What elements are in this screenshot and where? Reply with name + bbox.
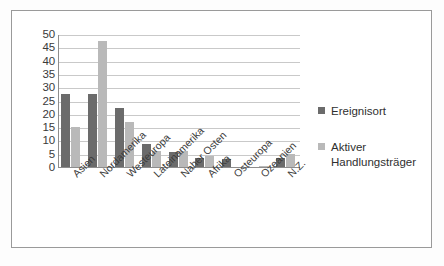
legend-item-label: Ereignisort xyxy=(331,104,386,118)
y-axis-tick-label: 25 xyxy=(43,96,55,108)
legend-swatch-ereignisort xyxy=(318,107,325,114)
legend-swatch-aktiver-handlungstraeger xyxy=(318,143,325,150)
y-axis-tick-label: 30 xyxy=(43,82,55,94)
bar[interactable] xyxy=(98,41,107,167)
y-axis-tick-label: 50 xyxy=(43,29,55,41)
chart-legend: EreignisortAktiver Handlungsträger xyxy=(318,104,438,191)
y-axis-tick-label: 20 xyxy=(43,109,55,121)
legend-item[interactable]: Aktiver Handlungsträger xyxy=(318,140,438,169)
bar[interactable] xyxy=(61,94,70,167)
bar-group xyxy=(220,35,247,167)
y-axis-tick-label: 10 xyxy=(43,136,55,148)
y-axis-tick-label: 45 xyxy=(43,43,55,55)
y-axis-tick-label: 15 xyxy=(43,122,55,134)
x-axis: AsienNordamerikaWesteuropaLateinamerikaN… xyxy=(52,171,312,233)
bar-group xyxy=(59,35,86,167)
chart-frame: 50454035302520151050 AsienNordamerikaWes… xyxy=(11,10,432,248)
y-axis-tick-label: 40 xyxy=(43,56,55,68)
y-axis: 50454035302520151050 xyxy=(25,29,55,174)
chart-figure: 50454035302520151050 AsienNordamerikaWes… xyxy=(0,0,444,266)
y-axis-tick-label: 35 xyxy=(43,69,55,81)
legend-item-label: Aktiver Handlungsträger xyxy=(331,140,416,169)
legend-item[interactable]: Ereignisort xyxy=(318,104,438,118)
bar-group xyxy=(86,35,113,167)
y-axis-tick-label: 5 xyxy=(49,149,55,161)
